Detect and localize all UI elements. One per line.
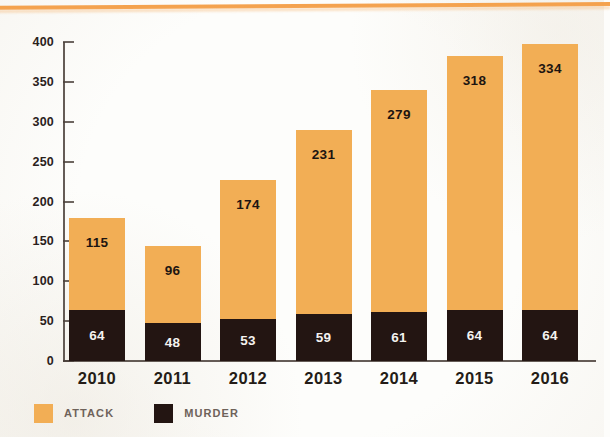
legend-item[interactable]: MURDER bbox=[154, 404, 239, 423]
x-axis-label: 2011 bbox=[137, 370, 209, 387]
bar-segment-attack[interactable]: 96 bbox=[145, 246, 201, 323]
bar-segment-attack[interactable]: 279 bbox=[371, 90, 427, 313]
bar-value-label-murder: 64 bbox=[69, 329, 125, 343]
bar-segment-attack[interactable]: 334 bbox=[522, 44, 578, 310]
bar-value-label-murder: 53 bbox=[220, 334, 276, 348]
bar-value-label-murder: 61 bbox=[371, 331, 427, 345]
bar-group[interactable]: 23159 bbox=[296, 130, 352, 361]
bar-group[interactable]: 9648 bbox=[145, 246, 201, 361]
bar-segment-murder[interactable]: 64 bbox=[69, 310, 125, 361]
bar-group[interactable]: 17453 bbox=[220, 180, 276, 361]
bar-value-label-attack: 231 bbox=[296, 148, 352, 162]
bar-group[interactable]: 31864 bbox=[447, 56, 503, 361]
bar-value-label-attack: 279 bbox=[371, 108, 427, 122]
bar-value-label-murder: 64 bbox=[522, 329, 578, 343]
bar-segment-attack[interactable]: 174 bbox=[220, 180, 276, 319]
x-axis-label: 2012 bbox=[212, 370, 284, 387]
bar-segment-murder[interactable]: 59 bbox=[296, 314, 352, 361]
x-axis-label: 2016 bbox=[514, 370, 586, 387]
legend-label: ATTACK bbox=[64, 408, 114, 419]
x-axis-label: 2010 bbox=[61, 370, 133, 387]
bar-value-label-attack: 115 bbox=[69, 236, 125, 250]
bar-segment-murder[interactable]: 48 bbox=[145, 323, 201, 361]
bar-value-label-attack: 318 bbox=[447, 74, 503, 88]
legend-swatch-murder bbox=[154, 404, 173, 423]
legend-label: MURDER bbox=[184, 408, 239, 419]
bar-value-label-attack: 96 bbox=[145, 264, 201, 278]
legend-swatch-attack bbox=[34, 404, 53, 423]
bar-value-label-attack: 174 bbox=[220, 198, 276, 212]
bar-value-label-murder: 59 bbox=[296, 331, 352, 345]
bar-group[interactable]: 33464 bbox=[522, 44, 578, 361]
bar-segment-attack[interactable]: 231 bbox=[296, 130, 352, 314]
bar-group[interactable]: 27961 bbox=[371, 90, 427, 361]
bar-segment-attack[interactable]: 318 bbox=[447, 56, 503, 310]
x-axis-label: 2015 bbox=[439, 370, 511, 387]
x-axis-label: 2013 bbox=[288, 370, 360, 387]
bar-segment-murder[interactable]: 61 bbox=[371, 312, 427, 361]
chart-legend: ATTACKMURDER bbox=[34, 404, 239, 423]
bar-segment-murder[interactable]: 64 bbox=[522, 310, 578, 361]
bar-segment-murder[interactable]: 53 bbox=[220, 319, 276, 361]
bar-group[interactable]: 11564 bbox=[69, 218, 125, 361]
bar-value-label-murder: 64 bbox=[447, 329, 503, 343]
bar-segment-attack[interactable]: 115 bbox=[69, 218, 125, 310]
x-axis-label: 2014 bbox=[363, 370, 435, 387]
legend-item[interactable]: ATTACK bbox=[34, 404, 114, 423]
bar-value-label-attack: 334 bbox=[522, 62, 578, 76]
bar-segment-murder[interactable]: 64 bbox=[447, 310, 503, 361]
bar-value-label-murder: 48 bbox=[145, 336, 201, 350]
